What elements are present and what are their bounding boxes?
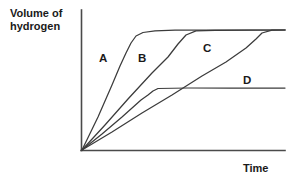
- curve-label-c: C: [203, 42, 211, 54]
- reaction-rate-chart: Volume of hydrogen Time A B C D: [0, 0, 292, 181]
- y-axis-label-line1: Volume of: [10, 7, 63, 19]
- curve-c-path: [82, 30, 285, 150]
- chart-container: Volume of hydrogen Time A B C D: [0, 0, 292, 181]
- curve-d-path: [82, 88, 285, 150]
- x-axis-label: Time: [243, 162, 268, 174]
- curve-label-d: D: [243, 74, 251, 86]
- y-axis-label-line2: hydrogen: [10, 20, 60, 32]
- curve-label-a: A: [99, 52, 107, 64]
- curve-label-b: B: [138, 52, 146, 64]
